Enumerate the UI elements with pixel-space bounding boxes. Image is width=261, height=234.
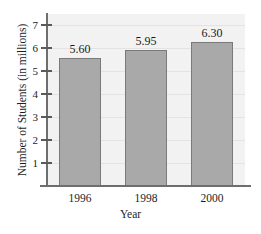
y-tick-label: 6 [24, 43, 38, 54]
y-axis-spine [46, 13, 48, 187]
y-tick-label: 7 [24, 20, 38, 31]
x-tick-label: 1998 [116, 192, 176, 205]
bar [59, 58, 101, 186]
bar [125, 50, 167, 186]
y-tick-mark [41, 70, 52, 72]
bar-value-label: 5.95 [121, 35, 171, 47]
bar-chart-figure: Number of Students (in millions) 1234567… [0, 0, 261, 234]
y-tick-mark [41, 93, 52, 95]
y-tick-mark [41, 47, 52, 49]
y-tick-mark [41, 162, 52, 164]
x-tick-label: 2000 [182, 192, 242, 205]
bar [191, 42, 233, 186]
y-tick-mark [41, 116, 52, 118]
y-tick-mark [41, 24, 52, 26]
y-tick-mark [41, 139, 52, 141]
bar-value-label: 5.60 [55, 43, 105, 55]
y-tick-label: 3 [24, 112, 38, 123]
bar-value-label: 6.30 [187, 27, 237, 39]
y-tick-label: 2 [24, 135, 38, 146]
x-axis-title: Year [0, 208, 261, 221]
x-axis-spine [40, 185, 251, 187]
y-tick-label: 1 [24, 158, 38, 169]
y-tick-label: 4 [24, 89, 38, 100]
x-tick-label: 1996 [50, 192, 110, 205]
y-tick-label: 5 [24, 66, 38, 77]
